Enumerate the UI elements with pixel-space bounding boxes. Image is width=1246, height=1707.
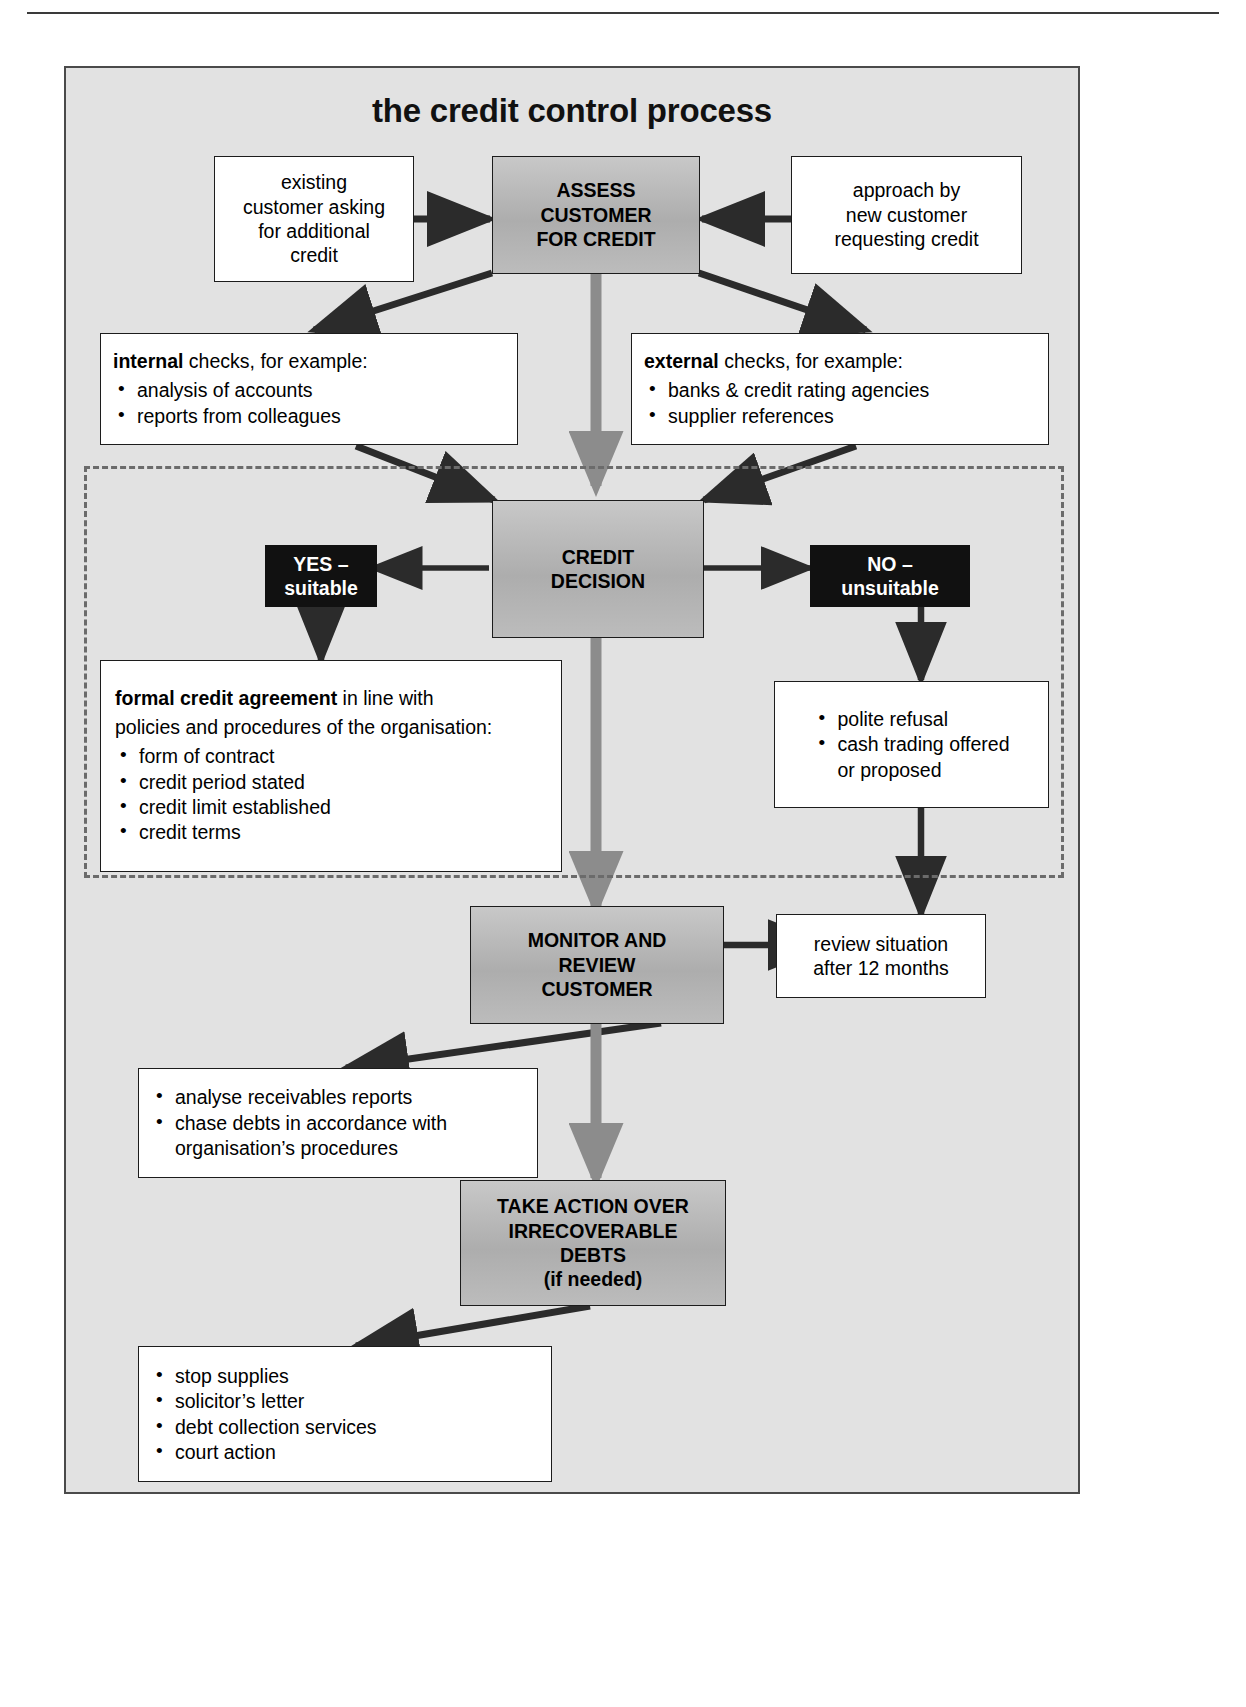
- node-take-action-line-3: DEBTS: [560, 1243, 626, 1267]
- external-checks-bullets: banks & credit rating agencies supplier …: [644, 377, 929, 429]
- node-take-action-line-2: IRRECOVERABLE: [508, 1219, 677, 1243]
- formal-agreement-bullet-4: credit terms: [115, 820, 331, 844]
- receivables-bullet-2-continuation: organisation’s procedures: [151, 1136, 447, 1160]
- formal-agreement-lead: formal credit agreement in line with: [115, 686, 434, 710]
- formal-agreement-bullet-3: credit limit established: [115, 795, 331, 819]
- node-monitor-line-3: CUSTOMER: [541, 977, 652, 1001]
- node-existing-customer[interactable]: existing customer asking for additional …: [214, 156, 414, 282]
- formal-agreement-bullets: form of contract credit period stated cr…: [115, 743, 331, 846]
- refusal-bullet-1: polite refusal: [813, 707, 1009, 731]
- node-internal-checks[interactable]: internal checks, for example: analysis o…: [100, 333, 518, 445]
- node-assess-line-2: CUSTOMER: [540, 203, 651, 227]
- internal-checks-bullets: analysis of accounts reports from collea…: [113, 377, 341, 429]
- node-refusal-options[interactable]: polite refusal cash trading offered or p…: [774, 681, 1049, 808]
- node-existing-customer-line-1: existing: [281, 170, 347, 194]
- node-assess-line-3: FOR CREDIT: [536, 227, 655, 251]
- receivables-bullet-2: chase debts in accordance with: [151, 1111, 447, 1135]
- receivables-bullets: analyse receivables reports chase debts …: [151, 1084, 447, 1161]
- node-new-customer-line-3: requesting credit: [834, 227, 978, 251]
- formal-agreement-lead-rest: in line with: [337, 687, 433, 709]
- internal-checks-lead: internal checks, for example:: [113, 349, 368, 373]
- node-take-action-irrecoverable-debts[interactable]: TAKE ACTION OVER IRRECOVERABLE DEBTS (if…: [460, 1180, 726, 1306]
- formal-agreement-bullet-1: form of contract: [115, 744, 331, 768]
- recovery-actions-bullets: stop supplies solicitor’s letter debt co…: [151, 1363, 377, 1466]
- node-take-action-line-1: TAKE ACTION OVER: [497, 1194, 689, 1218]
- recovery-actions-bullet-1: stop supplies: [151, 1364, 377, 1388]
- node-review-situation[interactable]: review situation after 12 months: [776, 914, 986, 998]
- figure-title: the credit control process: [66, 92, 1078, 130]
- page-header-rule: [27, 12, 1219, 14]
- node-existing-customer-line-2: customer asking: [243, 195, 385, 219]
- node-yes-suitable[interactable]: YES – suitable: [265, 545, 377, 607]
- receivables-bullet-1: analyse receivables reports: [151, 1085, 447, 1109]
- node-credit-decision-line-2: DECISION: [551, 569, 645, 593]
- internal-checks-lead-rest: checks, for example:: [183, 350, 367, 372]
- node-new-customer-line-2: new customer: [846, 203, 967, 227]
- node-credit-decision[interactable]: CREDIT DECISION: [492, 500, 704, 638]
- external-checks-bullet-2: supplier references: [644, 404, 929, 428]
- internal-checks-bullet-2: reports from colleagues: [113, 404, 341, 428]
- connector-monitor-to-receivables: [346, 1023, 661, 1068]
- node-take-action-line-4: (if needed): [544, 1267, 643, 1291]
- external-checks-bullet-1: banks & credit rating agencies: [644, 378, 929, 402]
- external-checks-lead-bold: external: [644, 350, 719, 372]
- node-credit-decision-line-1: CREDIT: [562, 545, 635, 569]
- recovery-actions-bullet-4: court action: [151, 1440, 377, 1464]
- node-assess-customer-for-credit[interactable]: ASSESS CUSTOMER FOR CREDIT: [492, 156, 700, 274]
- node-assess-line-1: ASSESS: [556, 178, 635, 202]
- node-review-situation-line-2: after 12 months: [813, 956, 949, 980]
- node-new-customer-line-1: approach by: [853, 178, 960, 202]
- node-existing-customer-line-3: for additional: [258, 219, 370, 243]
- node-monitor-line-2: REVIEW: [559, 953, 636, 977]
- figure-canvas: the credit control process existing cust…: [66, 68, 1078, 1492]
- formal-agreement-lead-bold: formal credit agreement: [115, 687, 337, 709]
- node-monitor-and-review-customer[interactable]: MONITOR AND REVIEW CUSTOMER: [470, 906, 724, 1024]
- connector-assess-to-external: [699, 273, 866, 330]
- node-no-line-1: NO –: [867, 552, 913, 576]
- recovery-actions-bullet-2: solicitor’s letter: [151, 1389, 377, 1413]
- internal-checks-bullet-1: analysis of accounts: [113, 378, 341, 402]
- refusal-bullet-2: cash trading offered: [813, 732, 1009, 756]
- node-recovery-actions[interactable]: stop supplies solicitor’s letter debt co…: [138, 1346, 552, 1482]
- node-no-unsuitable[interactable]: NO – unsuitable: [810, 545, 970, 607]
- node-review-situation-line-1: review situation: [814, 932, 948, 956]
- refusal-bullet-2-continuation: or proposed: [813, 758, 1009, 782]
- node-yes-line-2: suitable: [284, 576, 358, 600]
- credit-control-process-figure: the credit control process existing cust…: [64, 66, 1080, 1494]
- recovery-actions-bullet-3: debt collection services: [151, 1415, 377, 1439]
- connector-action-to-recovery: [356, 1306, 590, 1346]
- node-no-line-2: unsuitable: [841, 576, 939, 600]
- node-existing-customer-line-4: credit: [290, 243, 338, 267]
- node-formal-credit-agreement[interactable]: formal credit agreement in line with pol…: [100, 660, 562, 872]
- formal-agreement-bullet-2: credit period stated: [115, 770, 331, 794]
- formal-agreement-lead-line2: policies and procedures of the organisat…: [115, 715, 492, 739]
- node-yes-line-1: YES –: [293, 552, 348, 576]
- node-receivables-actions[interactable]: analyse receivables reports chase debts …: [138, 1068, 538, 1178]
- external-checks-lead-rest: checks, for example:: [719, 350, 903, 372]
- internal-checks-lead-bold: internal: [113, 350, 183, 372]
- external-checks-lead: external checks, for example:: [644, 349, 903, 373]
- refusal-bullets: polite refusal cash trading offered or p…: [813, 706, 1009, 783]
- node-new-customer-approach[interactable]: approach by new customer requesting cred…: [791, 156, 1022, 274]
- node-external-checks[interactable]: external checks, for example: banks & cr…: [631, 333, 1049, 445]
- node-monitor-line-1: MONITOR AND: [528, 928, 667, 952]
